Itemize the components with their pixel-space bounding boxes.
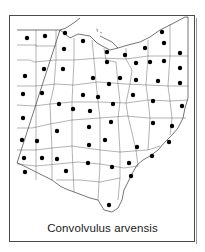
county-dot: [135, 145, 139, 149]
county-dot: [156, 79, 160, 83]
county-dot: [180, 104, 184, 108]
county-dot: [131, 93, 135, 97]
county-dot: [178, 51, 182, 55]
county-dot: [55, 157, 59, 161]
county-dot: [43, 34, 47, 38]
county-dot: [162, 41, 166, 45]
county-dot: [25, 36, 29, 40]
county-dot: [151, 99, 155, 103]
county-dot: [105, 60, 109, 64]
county-dot: [21, 92, 25, 96]
county-dot: [170, 124, 174, 128]
county-dot: [151, 121, 155, 125]
lake-erie-islands: [96, 29, 102, 33]
county-dot: [21, 116, 25, 120]
species-caption: Convolvulus arvensis: [0, 222, 205, 234]
county-dot: [110, 165, 114, 169]
county-dot: [81, 39, 85, 43]
county-dot: [61, 67, 65, 71]
county-dot: [127, 161, 131, 165]
county-dot: [118, 76, 122, 80]
county-dot: [134, 78, 138, 82]
county-dot: [91, 76, 95, 80]
county-dot: [162, 59, 166, 63]
county-dot: [81, 93, 85, 97]
county-dot: [96, 95, 100, 99]
county-dot: [150, 154, 154, 158]
county-dot: [167, 140, 171, 144]
county-dot: [129, 174, 133, 178]
county-dot: [87, 143, 91, 147]
county-dot: [134, 61, 138, 65]
county-dot: [87, 125, 91, 129]
county-dot: [42, 67, 46, 71]
county-dot: [20, 138, 24, 142]
county-dot: [40, 156, 44, 160]
county-dot: [160, 30, 164, 34]
county-dot: [143, 46, 147, 50]
county-dot: [123, 53, 127, 57]
county-dot: [86, 161, 90, 165]
county-dot: [57, 102, 61, 106]
state-outline: [17, 17, 188, 212]
county-boundaries: [17, 24, 188, 200]
county-dot: [40, 91, 44, 95]
county-dot: [109, 120, 113, 124]
county-dot: [178, 81, 182, 85]
county-dot: [107, 203, 111, 207]
county-dot: [64, 169, 68, 173]
county-dot: [23, 74, 27, 78]
county-dot: [55, 129, 59, 133]
ohio-county-map: [0, 0, 205, 252]
county-dot: [35, 139, 39, 143]
county-dot: [22, 156, 26, 160]
county-dot: [111, 102, 115, 106]
county-dot: [62, 47, 66, 51]
occurrence-dots: [20, 30, 184, 207]
county-dot: [105, 50, 109, 54]
county-dot: [103, 138, 107, 142]
county-dot: [107, 82, 111, 86]
county-dot: [71, 107, 75, 111]
county-dot: [178, 66, 182, 70]
county-dot: [63, 31, 67, 35]
county-dot: [88, 109, 92, 113]
county-dot: [148, 60, 152, 64]
county-dot: [23, 170, 27, 174]
